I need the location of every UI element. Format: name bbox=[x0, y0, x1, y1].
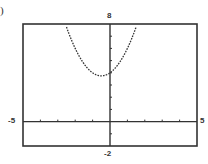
graph-window bbox=[0, 0, 208, 164]
y-min-label: -2 bbox=[104, 150, 111, 158]
y-max-label: 8 bbox=[107, 12, 111, 20]
x-min-label: -5 bbox=[8, 117, 15, 125]
parabola-curve bbox=[67, 27, 137, 76]
x-max-label: 5 bbox=[200, 117, 204, 125]
